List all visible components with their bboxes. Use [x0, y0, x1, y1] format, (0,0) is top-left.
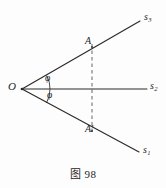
- ray-label-s3: s3: [144, 12, 152, 23]
- point-label-A: A: [85, 36, 91, 46]
- geometry-diagram: [0, 0, 166, 188]
- point-marker-A: [91, 46, 93, 48]
- ray-s1-line: [22, 89, 139, 152]
- figure-caption: 图 98: [0, 165, 166, 181]
- ray-label-s1-subscript: 1: [147, 149, 150, 156]
- figure-container: O s3 s2 s1 A A' φ φ 图 98: [0, 0, 166, 188]
- point-label-A-prime: A': [85, 124, 93, 134]
- ray-label-s2: s2: [150, 81, 158, 92]
- ray-label-s3-subscript: 3: [148, 16, 151, 23]
- ray-label-s2-subscript: 2: [154, 85, 157, 92]
- vertex-point-O: [21, 88, 24, 91]
- ray-label-s1: s1: [143, 145, 151, 156]
- ray-s3-line: [22, 21, 140, 89]
- vertex-label-O: O: [8, 81, 16, 92]
- angle-label-phi-lower: φ: [47, 91, 52, 101]
- angle-label-phi-upper: φ: [45, 74, 50, 84]
